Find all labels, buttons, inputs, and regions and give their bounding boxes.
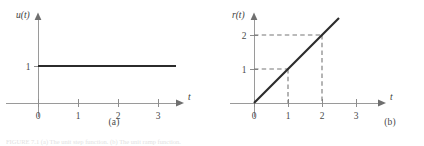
chart-panel-a: u(t) t 0 1 2 3 1 (a) [0, 0, 212, 146]
chart-panel-b: r(t) t 0 1 2 3 1 2 (b) [212, 0, 424, 146]
y-tick-label-1-b: 1 [242, 65, 247, 75]
unit-ramp-curve [254, 18, 339, 103]
panel-caption-a: (a) [0, 117, 220, 127]
y-tick-label-2-b: 2 [242, 31, 247, 41]
y-tick-label-1-a: 1 [26, 62, 31, 72]
unit-step-plot: u(t) t 0 1 2 3 1 [0, 0, 212, 132]
y-axis-arrowhead-b [251, 13, 258, 21]
x-axis-label-b: t [390, 92, 393, 102]
x-axis-arrowhead-b [378, 100, 386, 107]
x-axis-label-a: t [188, 92, 191, 102]
figure-container: u(t) t 0 1 2 3 1 (a) [0, 0, 424, 146]
figure-footer-caption: FIGURE 7.1 (a) The unit step function. (… [6, 138, 246, 146]
x-axis-arrowhead-a [176, 100, 184, 107]
y-axis-label-a: u(t) [16, 10, 30, 21]
panel-caption-b: (b) [212, 117, 424, 127]
y-axis-label-b: r(t) [232, 10, 245, 21]
unit-ramp-plot: r(t) t 0 1 2 3 1 2 [212, 0, 424, 132]
y-axis-arrowhead-a [35, 13, 42, 21]
